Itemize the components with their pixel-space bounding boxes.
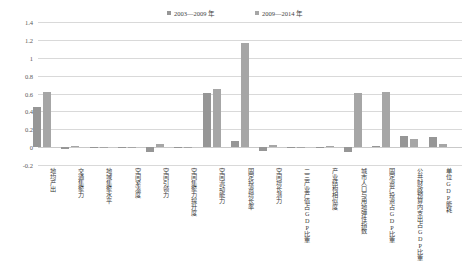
bar-series-2 xyxy=(156,144,164,147)
bar-group xyxy=(264,22,292,165)
bar-group xyxy=(66,22,94,165)
bar-series-2 xyxy=(382,92,390,147)
x-label-cell: 空间增长潜力 xyxy=(264,167,292,267)
bar-series-2 xyxy=(297,147,305,148)
bar-series-2 xyxy=(128,147,136,148)
legend-item-series-2: 2009—2014 年 xyxy=(255,8,303,18)
x-tick-label: 地均产出 xyxy=(49,168,55,192)
bar-series-2 xyxy=(213,89,221,147)
y-tick-label: 0.2 xyxy=(25,126,33,133)
legend-swatch-series-1 xyxy=(167,11,171,15)
x-tick-label: 空间流动能力 xyxy=(219,168,225,204)
chart-legend: 2003—2009 年 2009—2014 年 xyxy=(0,8,470,18)
bar-group xyxy=(95,22,123,165)
bar-series-1 xyxy=(146,147,154,151)
x-tick-label: 空间增长潜力 xyxy=(275,168,281,204)
bar-series-2 xyxy=(410,139,418,147)
bar-series-1 xyxy=(203,93,211,148)
bar-group xyxy=(292,22,320,165)
legend-item-series-1: 2003—2009 年 xyxy=(167,8,215,18)
bar-group xyxy=(38,22,66,165)
x-tick-label: 固定投资增长率 xyxy=(247,168,253,210)
x-tick-label: 地域集聚水平 xyxy=(106,168,112,204)
plot-area xyxy=(38,22,462,165)
x-label-cell: 城市人口与用地弹性指数 xyxy=(349,167,377,267)
y-tick-label: 1.2 xyxy=(25,36,33,43)
bar-series-1 xyxy=(287,147,295,148)
x-tick-label: 单位GDP能耗 xyxy=(445,168,451,213)
bar-series-1 xyxy=(259,147,267,151)
x-label-cell: 公共财政预算内支出占GDP比重 xyxy=(405,167,433,267)
x-label-cell: 二三产业产值占GDP比重 xyxy=(292,167,320,267)
x-tick-label: 空间引领力 xyxy=(162,168,168,198)
x-tick-label: 固定资产投资占GDP比重 xyxy=(388,168,394,243)
x-tick-label: 城市人口与用地弹性指数 xyxy=(360,168,366,234)
bar-series-1 xyxy=(61,147,69,149)
x-label-cell: 地均产出 xyxy=(38,167,66,267)
bar-series-2 xyxy=(326,146,334,147)
bar-series-2 xyxy=(354,93,362,148)
y-tick-label: 0.4 xyxy=(25,108,33,115)
bar-series-1 xyxy=(118,147,126,148)
x-label-cell: 空间引领力 xyxy=(151,167,179,267)
bar-group xyxy=(151,22,179,165)
x-tick-label: 二三产业产值占GDP比重 xyxy=(303,168,309,243)
x-label-cell: 空间紧凑度 xyxy=(123,167,151,267)
x-label-cell: 固定投资增长率 xyxy=(236,167,264,267)
bar-group xyxy=(236,22,264,165)
y-tick-label: 1 xyxy=(30,54,33,61)
bar-group xyxy=(349,22,377,165)
bar-series-2 xyxy=(184,147,192,148)
bar-series-2 xyxy=(241,43,249,148)
x-tick-label: 空间紧凑度 xyxy=(134,168,140,198)
bar-series-2 xyxy=(100,147,108,148)
x-tick-label: 空间集聚力提升度 xyxy=(190,168,196,216)
bar-series-1 xyxy=(33,107,41,147)
x-label-cell: 单位GDP能耗 xyxy=(434,167,462,267)
bar-series-1 xyxy=(429,137,437,147)
bar-series-1 xyxy=(90,147,98,148)
bar-series-2 xyxy=(71,146,79,147)
gridline--0.2 xyxy=(38,165,462,166)
bar-series-2 xyxy=(43,92,51,147)
x-label-cell: 产业结构相似度 xyxy=(321,167,349,267)
bar-series-1 xyxy=(231,141,239,147)
legend-label-series-1: 2003—2009 年 xyxy=(174,8,215,18)
y-axis: 1.41.210.80.60.40.20-0.2 xyxy=(0,22,36,165)
bar-series-2 xyxy=(439,144,447,147)
x-label-cell: 空间集聚力提升度 xyxy=(179,167,207,267)
bar-group xyxy=(123,22,151,165)
x-tick-label: 公共财政预算内支出占GDP比重 xyxy=(416,168,422,261)
bar-series-1 xyxy=(372,146,380,147)
x-label-cell: 固定资产投资占GDP比重 xyxy=(377,167,405,267)
x-tick-label: 交通集聚力 xyxy=(77,168,83,198)
bar-series-container xyxy=(38,22,462,165)
x-label-cell: 交通集聚力 xyxy=(66,167,94,267)
bar-group xyxy=(321,22,349,165)
x-label-cell: 地域集聚水平 xyxy=(95,167,123,267)
x-tick-label: 产业结构相似度 xyxy=(332,168,338,210)
y-tick-label: 1.4 xyxy=(25,19,33,26)
bar-series-1 xyxy=(316,147,324,148)
bar-group xyxy=(434,22,462,165)
bar-series-1 xyxy=(400,136,408,147)
y-tick-label: 0.6 xyxy=(25,90,33,97)
legend-swatch-series-2 xyxy=(255,11,259,15)
y-tick-label: 0.8 xyxy=(25,72,33,79)
bar-series-1 xyxy=(174,147,182,148)
bar-chart: 2003—2009 年 2009—2014 年 1.41.210.80.60.4… xyxy=(0,0,470,270)
y-tick-label: -0.2 xyxy=(23,162,33,169)
x-label-cell: 空间流动能力 xyxy=(208,167,236,267)
legend-label-series-2: 2009—2014 年 xyxy=(262,8,303,18)
bar-series-2 xyxy=(269,145,277,147)
bar-series-1 xyxy=(344,147,352,151)
x-axis-labels: 地均产出交通集聚力地域集聚水平空间紧凑度空间引领力空间集聚力提升度空间流动能力固… xyxy=(38,167,462,267)
